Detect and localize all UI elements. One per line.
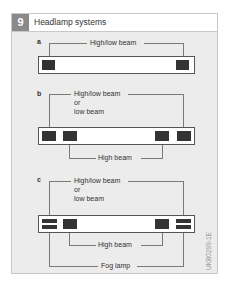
figure-code: UKB0299-1E <box>205 232 212 270</box>
label-high-low-beam: High/low beam <box>74 177 120 186</box>
bracket-line <box>183 233 184 266</box>
lamp-inner-right <box>155 131 169 141</box>
headlamp-bar-a <box>38 56 195 74</box>
bracket-line <box>69 233 70 245</box>
diagram-letter-b: b <box>37 90 41 99</box>
bracket-line <box>183 94 184 127</box>
bracket-line <box>69 145 70 158</box>
headlamp-bar-b <box>38 127 195 145</box>
bracket-line <box>128 181 184 182</box>
bracket-line <box>49 181 71 182</box>
label-high-beam: High beam <box>98 154 132 163</box>
bracket-line <box>49 266 98 267</box>
lamp-inner-right <box>155 219 169 229</box>
lamp-right <box>176 60 189 70</box>
lamp-left <box>42 60 55 70</box>
label-low-beam: low beam <box>74 108 104 117</box>
figure-header: 9 Headlamp systems <box>12 14 217 32</box>
label-or: or <box>74 186 80 195</box>
bracket-line <box>69 158 96 159</box>
label-or: or <box>74 99 80 108</box>
diagram-letter-a: a <box>37 38 41 47</box>
bracket-line <box>49 94 50 127</box>
bracket-line <box>128 94 184 95</box>
bracket-line <box>69 245 96 246</box>
bracket-line <box>49 233 50 266</box>
label-high-beam: High beam <box>98 241 132 250</box>
bracket-line <box>183 181 184 215</box>
bracket-line <box>144 43 184 44</box>
fog-lamp-right-bottom <box>176 225 191 229</box>
label-low-beam: low beam <box>74 195 104 204</box>
bracket-line <box>141 158 163 159</box>
bracket-line <box>49 181 50 215</box>
bracket-line <box>162 233 163 245</box>
bracket-line <box>49 94 71 95</box>
diagram-letter-c: c <box>37 176 41 185</box>
fog-lamp-left-top <box>42 219 57 223</box>
label-high-low-beam: High/low beam <box>74 90 120 99</box>
figure-number: 9 <box>12 14 29 31</box>
bracket-line <box>183 43 184 56</box>
lamp-inner-left <box>63 131 77 141</box>
lamp-outer-left <box>42 131 56 141</box>
label-fog-lamp: Fog lamp <box>101 262 130 271</box>
bracket-line <box>49 43 87 44</box>
figure-title: Headlamp systems <box>34 14 106 31</box>
bracket-line <box>141 245 163 246</box>
lamp-outer-right <box>177 131 191 141</box>
bracket-line <box>49 43 50 56</box>
lamp-inner-left <box>63 219 77 229</box>
label-high-low-beam: High/low beam <box>90 39 136 48</box>
bracket-line <box>137 266 184 267</box>
bracket-line <box>162 145 163 158</box>
headlamp-bar-c <box>38 215 195 233</box>
fog-lamp-right-top <box>176 219 191 223</box>
fog-lamp-left-bottom <box>42 225 57 229</box>
